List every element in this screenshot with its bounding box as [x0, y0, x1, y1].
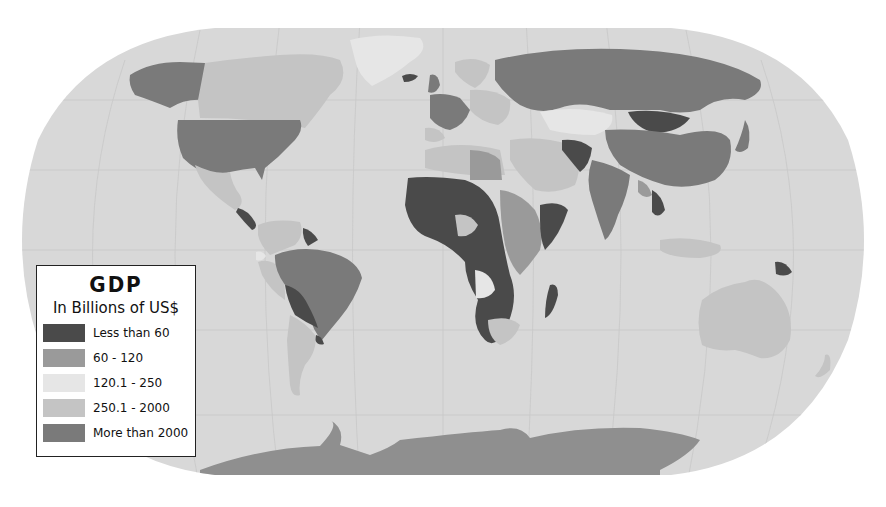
legend-label: 60 - 120 [93, 351, 143, 365]
legend-swatch [43, 424, 85, 442]
legend: GDP In Billions of US$ Less than 60 60 -… [36, 265, 196, 457]
legend-item: 120.1 - 250 [43, 372, 189, 394]
legend-label: 120.1 - 250 [93, 376, 162, 390]
legend-title: GDP [47, 272, 186, 298]
legend-swatch [43, 399, 85, 417]
legend-label: 250.1 - 2000 [93, 401, 170, 415]
legend-swatch [43, 374, 85, 392]
legend-item: Less than 60 [43, 322, 189, 344]
legend-item: 60 - 120 [43, 347, 189, 369]
legend-subtitle: In Billions of US$ [43, 298, 189, 318]
legend-swatch [43, 324, 85, 342]
legend-label: More than 2000 [93, 426, 188, 440]
legend-item: More than 2000 [43, 422, 189, 444]
legend-swatch [43, 349, 85, 367]
legend-label: Less than 60 [93, 326, 170, 340]
legend-item: 250.1 - 2000 [43, 397, 189, 419]
